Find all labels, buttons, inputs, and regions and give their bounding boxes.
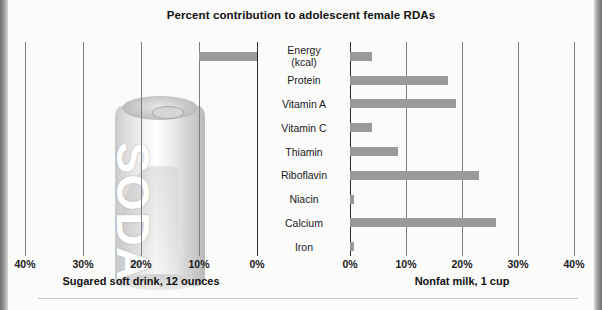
bar-right-vitamin-c — [350, 123, 372, 132]
chart-left-soft-drink: SODA — [25, 42, 257, 256]
can-pull-tab — [152, 106, 184, 119]
category-label-line: Iron — [260, 241, 348, 253]
gridline-left-30 — [83, 42, 84, 256]
axis-ticks-left: 40%30%20%10%0% — [25, 258, 257, 272]
category-label-thiamin: Thiamin — [260, 146, 348, 158]
category-label-protein: Protein — [260, 74, 348, 86]
category-label-line: Energy — [260, 44, 348, 56]
bar-right-niacin — [350, 195, 354, 204]
figure-sheet: Percent contribution to adolescent femal… — [8, 0, 594, 310]
chart-title: Percent contribution to adolescent femal… — [8, 9, 594, 21]
tick-label-left-40: 40% — [14, 258, 35, 270]
category-label-line: Vitamin A — [260, 98, 348, 110]
bar-right-calcium — [350, 218, 496, 227]
category-label-line: Vitamin C — [260, 122, 348, 134]
category-label-line: (kcal) — [260, 56, 348, 68]
bar-right-vitamin-a — [350, 99, 456, 108]
tick-label-right-40: 40% — [563, 258, 584, 270]
tick-label-left-0: 0% — [249, 258, 264, 270]
category-label-line: Thiamin — [260, 146, 348, 158]
tick-label-right-30: 30% — [507, 258, 528, 270]
gridline-right-40 — [574, 42, 575, 256]
bar-left-energy-kcal — [199, 52, 257, 61]
tick-label-left-20: 20% — [130, 258, 151, 270]
can-lid — [122, 96, 198, 120]
gridline-left-20 — [141, 42, 142, 256]
category-label-niacin: Niacin — [260, 193, 348, 205]
page-edge-right — [594, 0, 602, 310]
gridline-left-0 — [257, 42, 258, 256]
category-label-iron: Iron — [260, 241, 348, 253]
page-edge-left — [0, 0, 8, 310]
category-labels: Energy(kcal)ProteinVitamin AVitamin CThi… — [260, 42, 348, 256]
bar-right-riboflavin — [350, 171, 479, 180]
category-label-vitamin-a: Vitamin A — [260, 98, 348, 110]
category-label-line: Niacin — [260, 193, 348, 205]
footer-label-right: Nonfat milk, 1 cup — [350, 275, 574, 287]
bar-right-iron — [350, 242, 354, 251]
bar-right-energy-kcal — [350, 52, 372, 61]
category-label-riboflavin: Riboflavin — [260, 169, 348, 181]
category-label-line: Riboflavin — [260, 169, 348, 181]
category-label-calcium: Calcium — [260, 217, 348, 229]
category-label-energy-kcal: Energy(kcal) — [260, 44, 348, 68]
chart-right-nonfat-milk — [350, 42, 574, 256]
gridline-right-30 — [518, 42, 519, 256]
bar-right-thiamin — [350, 147, 398, 156]
figure-page: Percent contribution to adolescent femal… — [0, 0, 602, 310]
tick-label-left-10: 10% — [188, 258, 209, 270]
tick-label-right-0: 0% — [342, 258, 357, 270]
category-label-line: Protein — [260, 74, 348, 86]
footer-rule — [38, 298, 578, 299]
bar-right-protein — [350, 76, 448, 85]
category-label-vitamin-c: Vitamin C — [260, 122, 348, 134]
footer-label-left: Sugared soft drink, 12 ounces — [25, 275, 257, 287]
gridline-left-10 — [199, 42, 200, 256]
gridline-left-40 — [25, 42, 26, 256]
tick-label-right-10: 10% — [395, 258, 416, 270]
category-label-line: Calcium — [260, 217, 348, 229]
axis-ticks-right: 0%10%20%30%40% — [350, 258, 574, 272]
tick-label-left-30: 30% — [72, 258, 93, 270]
tick-label-right-20: 20% — [451, 258, 472, 270]
